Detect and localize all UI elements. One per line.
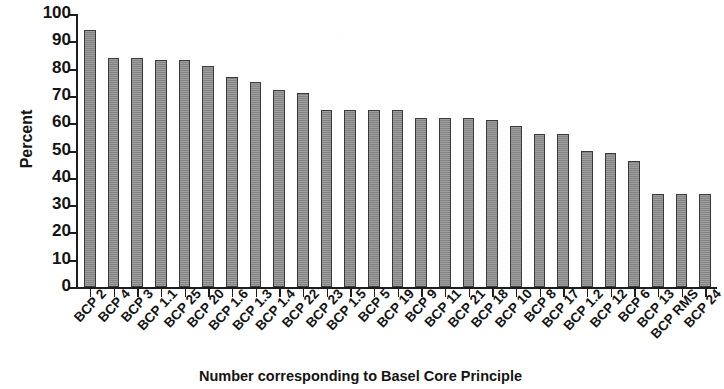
x-axis-tick-labels: BCP 2BCP 4BCP 3BCP 1.1BCP 25BCP 20BCP 1.… [76,286,717,358]
bar [605,153,617,287]
bar [463,118,475,287]
bar [273,90,285,287]
y-tick-label: 60 [31,112,71,132]
y-tick-label: 80 [31,58,71,78]
bar [155,60,167,287]
bar [439,118,451,287]
bar [628,161,640,287]
bar [297,93,309,287]
y-tick-label: 30 [31,194,71,214]
y-tick-label: 40 [31,167,71,187]
y-tick-label: 100 [31,3,71,23]
y-tick-label: 50 [31,140,71,160]
bar [392,110,404,287]
y-tick-label: 0 [31,276,71,296]
bar [226,77,238,287]
bar [250,82,262,287]
x-axis-title: Number corresponding to Basel Core Princ… [0,368,721,384]
y-tick-label: 10 [31,249,71,269]
bar [534,134,546,287]
y-tick-label: 20 [31,221,71,241]
y-tick-label: 70 [31,85,71,105]
bar [202,66,214,287]
bar-series [78,14,717,287]
bar [321,110,333,287]
bar [581,151,593,288]
bar [676,194,688,287]
bar [131,58,143,287]
bar [368,110,380,287]
bar [486,120,498,287]
bar [84,30,96,287]
bar [108,58,120,287]
bar [557,134,569,287]
bar [699,194,711,287]
y-tick-label: 90 [31,30,71,50]
bar [344,110,356,287]
plot-area: 0102030405060708090100 [76,14,717,289]
bar [415,118,427,287]
bar [510,126,522,287]
bar [652,194,664,287]
bar [179,60,191,287]
